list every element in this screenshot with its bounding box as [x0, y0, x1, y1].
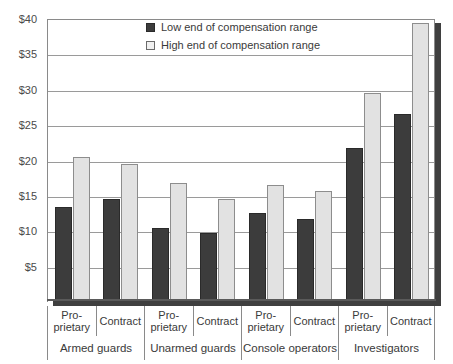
category-axis-label-line: prietary: [150, 321, 187, 333]
y-axis-tick-label: $5: [25, 261, 37, 272]
chart-legend: Low end of compensation rangeHigh end of…: [146, 20, 320, 56]
group-axis-label: Armed guards: [47, 336, 144, 360]
category-axis-label: Pro-prietary: [241, 306, 290, 336]
legend-swatch-low-icon: [146, 23, 155, 32]
plot-shadow-right-edge: [435, 23, 441, 306]
group-axis-label: Unarmed guards: [144, 336, 241, 360]
bars-layer: [48, 20, 434, 302]
group-axis-label: Console operators: [241, 336, 338, 360]
y-axis-tick-label: $30: [19, 84, 37, 95]
category-axis-row: Pro-prietaryContractPro-prietaryContract…: [47, 306, 436, 336]
y-axis-tick-label: $25: [19, 120, 37, 131]
bar-low-end: [152, 228, 169, 302]
bar-high-end: [121, 164, 138, 302]
bar-low-end: [55, 207, 72, 303]
category-axis-label-line: Contract: [196, 315, 238, 327]
category-axis-label-line: prietary: [247, 321, 284, 333]
legend-swatch-high-icon: [146, 41, 155, 50]
y-axis-tick-label: $10: [19, 226, 37, 237]
category-axis-label-line: Pro-: [53, 309, 90, 321]
category-axis-label-line: Pro-: [344, 309, 381, 321]
bar-high-end: [364, 93, 381, 302]
category-axis-label-line: prietary: [53, 321, 90, 333]
y-axis-tick-label: $35: [19, 49, 37, 60]
bar-low-end: [297, 219, 314, 302]
category-axis-label: Pro-prietary: [47, 306, 96, 336]
bar-high-end: [315, 191, 332, 302]
category-axis-label-line: Pro-: [150, 309, 187, 321]
category-axis-label: Pro-prietary: [144, 306, 193, 336]
category-axis-label-line: Contract: [293, 315, 335, 327]
y-axis-labels: $40$35$30$25$20$15$10$5: [0, 0, 42, 364]
bar-low-end: [346, 148, 363, 302]
y-axis-tick-label: $15: [19, 190, 37, 201]
bar-high-end: [73, 157, 90, 302]
bar-high-end: [218, 199, 235, 302]
legend-item: Low end of compensation range: [146, 20, 320, 35]
legend-label: Low end of compensation range: [161, 20, 318, 35]
group-axis-row: Armed guardsUnarmed guardsConsole operat…: [47, 336, 436, 360]
category-axis-label: Contract: [96, 306, 145, 336]
category-axis-label-line: prietary: [344, 321, 381, 333]
category-axis-label: Contract: [290, 306, 339, 336]
legend-item: High end of compensation range: [146, 38, 320, 53]
x-axis-baseline: [47, 299, 436, 301]
bar-high-end: [170, 183, 187, 302]
compensation-range-bar-chart: $40$35$30$25$20$15$10$5 Low end of compe…: [0, 0, 453, 364]
plot-area: [47, 19, 435, 302]
y-axis-tick-label: $20: [19, 155, 37, 166]
group-axis-label: Investigators: [338, 336, 435, 360]
category-axis-label-line: Pro-: [247, 309, 284, 321]
category-axis-label-line: Contract: [390, 315, 432, 327]
category-axis-label: Pro-prietary: [338, 306, 387, 336]
category-axis-label: Contract: [193, 306, 242, 336]
bar-high-end: [412, 23, 429, 302]
bar-low-end: [394, 114, 411, 302]
bar-low-end: [249, 213, 266, 302]
bar-high-end: [267, 185, 284, 302]
bar-low-end: [103, 199, 120, 302]
category-axis-label: Contract: [387, 306, 436, 336]
bar-low-end: [200, 233, 217, 302]
legend-label: High end of compensation range: [161, 38, 320, 53]
category-axis-label-line: Contract: [99, 315, 141, 327]
y-axis-tick-label: $40: [19, 14, 37, 25]
